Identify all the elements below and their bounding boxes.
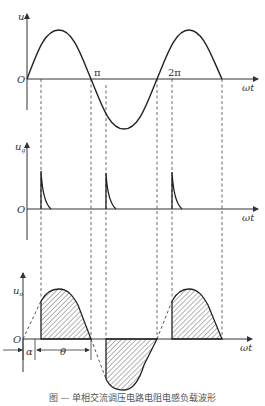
waveform-diagram: u O π 2π ωt ug O ωt — [0, 0, 265, 406]
origin-label: O — [17, 204, 25, 215]
y-axis-label: u — [18, 11, 24, 22]
conduction-region-negative — [106, 339, 157, 390]
x-axis-label: ωt — [240, 342, 253, 353]
conduction-region-positive-1 — [41, 289, 91, 339]
y-axis-label: ug — [15, 141, 25, 154]
gate-pulse-1 — [41, 171, 51, 209]
gate-pulse-3 — [172, 172, 182, 209]
panel-output-voltage: uo O α θ ωt — [3, 273, 253, 390]
x-axis-label: ωt — [242, 82, 255, 93]
tick-2pi: 2π — [168, 67, 181, 78]
theta-label: θ — [60, 346, 66, 357]
figure-caption: 图 — 单相交流调压电路电阻电感负载波形 — [0, 391, 265, 404]
y-axis-label: uo — [13, 285, 23, 297]
conduction-region-positive-2 — [172, 289, 222, 339]
gate-pulse-2 — [106, 173, 116, 209]
panel-gate-pulses: ug O ωt — [15, 141, 258, 240]
tick-pi: π — [94, 67, 101, 78]
origin-label: O — [17, 74, 25, 85]
x-axis-label: ωt — [242, 212, 255, 223]
panel-input-voltage: u O π 2π ωt — [17, 11, 258, 129]
origin-label: O — [13, 334, 21, 345]
alpha-label: α — [26, 346, 33, 357]
